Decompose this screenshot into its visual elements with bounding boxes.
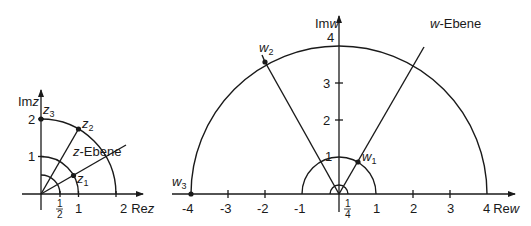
- z-real-axis-label: 2Rez: [120, 201, 155, 216]
- conformal-mapping-figure: z-Ebene Imz 2Rez 1 1 2 1 2 z1 z2 z3: [0, 0, 531, 226]
- label-z3: z3: [42, 102, 55, 119]
- w-ytick-label-1: 1: [325, 149, 332, 164]
- w-tick-label-m4: -4: [182, 201, 194, 216]
- w-real-axis-label: 4Rew: [483, 201, 521, 216]
- w-frac-num: 1: [345, 198, 351, 209]
- z-ytick-label-1: 1: [28, 149, 35, 164]
- w-ray-60deg: [339, 47, 424, 194]
- point-w2: [262, 59, 267, 64]
- w-tick-label-m1: -1: [294, 201, 306, 216]
- diagram-canvas: z-Ebene Imz 2Rez 1 1 2 1 2 z1 z2 z3: [0, 0, 531, 226]
- z-ytick-label-2: 2: [28, 112, 35, 127]
- point-z3: [38, 116, 43, 121]
- w-tick-label-m2: -2: [257, 201, 269, 216]
- w-tick-label-m3: -3: [220, 201, 232, 216]
- z-frac-den: 2: [57, 209, 63, 220]
- z-plane-title: z-Ebene: [72, 144, 121, 159]
- point-z2: [76, 126, 81, 131]
- w-ytick-label-3: 3: [323, 76, 330, 91]
- w-ytick-label-2: 2: [323, 113, 330, 128]
- label-w1: w1: [362, 149, 376, 166]
- z-imag-axis-label: Imz: [18, 94, 39, 109]
- label-z2: z2: [81, 116, 94, 133]
- label-w3: w3: [172, 174, 186, 191]
- w-ytick-label-4: 4: [327, 30, 334, 45]
- w-plane: w-Ebene Imw 4 3 2 1 -4 -3 -2 -1 1 2 3 4R…: [172, 16, 521, 220]
- label-z1: z1: [76, 171, 89, 188]
- point-w1: [355, 159, 360, 164]
- label-w2: w2: [259, 40, 273, 57]
- w-frac-den: 4: [345, 209, 351, 220]
- z-tick-label-1: 1: [75, 201, 82, 216]
- w-tick-label-1: 1: [373, 201, 380, 216]
- w-tick-label-2: 2: [410, 201, 417, 216]
- w-imag-axis-label: Imw: [315, 16, 340, 31]
- w-tick-label-3: 3: [447, 201, 454, 216]
- point-w3: [188, 191, 193, 196]
- z-ray-60deg: [41, 129, 79, 194]
- z-plane: z-Ebene Imz 2Rez 1 1 2 1 2 z1 z2 z3: [18, 90, 155, 220]
- point-z1: [71, 173, 76, 178]
- w-plane-title: w-Ebene: [430, 16, 481, 31]
- z-frac-num: 1: [57, 198, 63, 209]
